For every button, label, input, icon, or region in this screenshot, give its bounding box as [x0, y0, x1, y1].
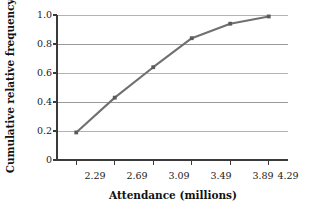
data-line	[76, 16, 269, 132]
data-points	[74, 15, 270, 135]
x-tick-marks	[76, 160, 269, 165]
cumulative-relative-frequency-chart: Cumulative relative frequency 1.0 0.8 0.…	[0, 0, 310, 209]
x-axis-title: Attendance (millions)	[57, 189, 289, 201]
plot-area	[0, 0, 310, 209]
axis-lines	[57, 15, 288, 160]
gridlines	[57, 15, 288, 131]
